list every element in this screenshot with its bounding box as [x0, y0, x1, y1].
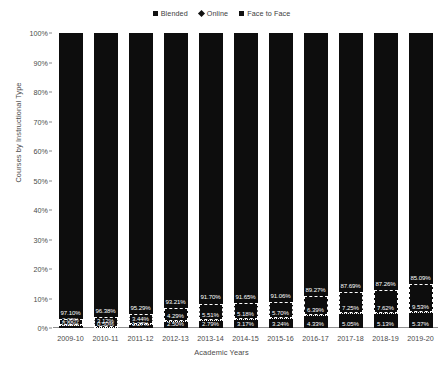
bar-column[interactable]: 91.06%5.70%3.24%2015-16: [263, 33, 298, 328]
x-axis-tick-label: 2010-11: [93, 334, 119, 343]
y-axis-tick-mark: [49, 62, 52, 63]
bar-value-label: 93.21%: [165, 299, 185, 305]
bar-stack: 87.69%7.25%5.05%: [339, 33, 363, 328]
bar-value-label: 95.29%: [130, 305, 150, 311]
bar-column[interactable]: 96.38%3.12%0.50%2010-11: [88, 33, 123, 328]
bar-column[interactable]: 91.65%5.18%3.17%2014-15: [228, 33, 263, 328]
y-axis-tick-mark: [49, 328, 52, 329]
legend-item-blended: Blended: [153, 9, 188, 18]
bar-column[interactable]: 93.21%4.29%2.50%2012-13: [158, 33, 193, 328]
bar-segment-face-to-face[interactable]: 89.27%: [304, 33, 328, 296]
x-axis-tick-label: 2017-18: [337, 334, 363, 343]
bar-value-label: 3.24%: [272, 321, 289, 327]
bar-column[interactable]: 91.70%5.51%2.79%2013-14: [193, 33, 228, 328]
legend-swatch-square-icon: [153, 11, 158, 16]
y-axis-tick-label: 60%: [34, 147, 48, 156]
bar-value-label: 87.26%: [375, 281, 395, 287]
bar-segment-online[interactable]: 5.05%: [339, 313, 363, 328]
bar-segment-online[interactable]: 2.50%: [164, 321, 188, 328]
bar-value-label: 3.17%: [237, 321, 254, 327]
bar-segment-online[interactable]: 1.27%: [129, 324, 153, 328]
bar-segment-face-to-face[interactable]: 87.26%: [374, 33, 398, 290]
bar-value-label: 2.50%: [167, 321, 184, 327]
bar-segment-online[interactable]: 0.50%: [94, 327, 118, 328]
bar-value-label: 91.65%: [235, 294, 255, 300]
y-axis-tick-label: 20%: [34, 265, 48, 274]
bar-segment-online[interactable]: 5.13%: [374, 313, 398, 328]
bar-segment-blended[interactable]: 6.39%: [304, 296, 328, 315]
y-axis-tick-label: 100%: [30, 29, 48, 38]
y-axis-tick-label: 30%: [34, 235, 48, 244]
y-axis-tick-mark: [49, 269, 52, 270]
x-axis-tick-label: 2013-14: [197, 334, 223, 343]
bar-series-group: 97.10%2.00%0.90%2009-1096.38%3.12%0.50%2…: [53, 33, 438, 328]
bar-segment-online[interactable]: 3.24%: [269, 318, 293, 328]
bar-column[interactable]: 85.09%9.53%5.37%2019-20: [403, 33, 438, 328]
bar-segment-online[interactable]: 3.17%: [234, 319, 258, 328]
bar-column[interactable]: 97.10%2.00%0.90%2009-10: [53, 33, 88, 328]
bar-value-label: 5.37%: [412, 321, 429, 327]
bar-column[interactable]: 95.29%3.44%1.27%2011-12: [123, 33, 158, 328]
y-axis-tick-mark: [49, 151, 52, 152]
bar-segment-blended[interactable]: 7.62%: [374, 290, 398, 312]
bar-segment-blended[interactable]: 9.53%: [409, 284, 433, 312]
bar-stack: 89.27%6.39%4.33%: [304, 33, 328, 328]
bar-column[interactable]: 87.26%7.62%5.13%2018-19: [368, 33, 403, 328]
x-axis-tick-label: 2016-17: [302, 334, 328, 343]
bar-segment-online[interactable]: 0.90%: [59, 325, 83, 328]
bar-segment-online[interactable]: 4.33%: [304, 315, 328, 328]
bar-value-label: 96.38%: [95, 308, 115, 314]
y-axis-tick-mark: [49, 33, 52, 34]
bar-value-label: 87.69%: [340, 283, 360, 289]
chart-legend: Blended Online Face to Face: [0, 9, 443, 18]
bar-segment-online[interactable]: 2.79%: [199, 320, 223, 328]
bar-segment-face-to-face[interactable]: 97.10%: [59, 33, 83, 319]
bar-stack: 91.06%5.70%3.24%: [269, 33, 293, 328]
x-axis-tick-label: 2012-13: [162, 334, 188, 343]
bar-value-label: 5.51%: [202, 312, 219, 318]
bar-segment-blended[interactable]: 7.25%: [339, 292, 363, 313]
bar-stack: 85.09%9.53%5.37%: [409, 33, 433, 328]
y-axis-tick-mark: [49, 210, 52, 211]
y-axis-tick-mark: [49, 92, 52, 93]
x-axis-tick-label: 2018-19: [372, 334, 398, 343]
bar-value-label: 1.27%: [132, 321, 149, 327]
bar-value-label: 4.29%: [167, 313, 184, 319]
y-axis-tick-mark: [49, 239, 52, 240]
bar-stack: 97.10%2.00%0.90%: [59, 33, 83, 328]
plot-area: 0%10%20%30%40%50%60%70%80%90%100% 97.10%…: [53, 33, 438, 328]
bar-column[interactable]: 89.27%6.39%4.33%2016-17: [298, 33, 333, 328]
bar-value-label: 85.09%: [410, 275, 430, 281]
bar-stack: 87.26%7.62%5.13%: [374, 33, 398, 328]
y-axis-tick-label: 50%: [34, 176, 48, 185]
bar-segment-blended[interactable]: 5.51%: [199, 304, 223, 320]
bar-value-label: 91.06%: [270, 293, 290, 299]
y-axis-tick-mark: [49, 298, 52, 299]
bar-segment-face-to-face[interactable]: 93.21%: [164, 33, 188, 308]
y-axis-tick-label: 90%: [34, 58, 48, 67]
bar-segment-blended[interactable]: 5.70%: [269, 302, 293, 319]
bar-segment-face-to-face[interactable]: 95.29%: [129, 33, 153, 314]
legend-swatch-square-icon: [239, 11, 244, 16]
bar-segment-blended[interactable]: 4.29%: [164, 308, 188, 321]
bar-segment-face-to-face[interactable]: 96.38%: [94, 33, 118, 317]
bar-segment-face-to-face[interactable]: 91.06%: [269, 33, 293, 302]
bar-stack: 96.38%3.12%0.50%: [94, 33, 118, 328]
bar-segment-online[interactable]: 5.37%: [409, 312, 433, 328]
bar-value-label: 5.05%: [342, 321, 359, 327]
bar-stack: 95.29%3.44%1.27%: [129, 33, 153, 328]
bar-column[interactable]: 87.69%7.25%5.05%2017-18: [333, 33, 368, 328]
y-axis-tick-label: 10%: [34, 294, 48, 303]
bar-value-label: 7.25%: [342, 305, 359, 311]
bar-segment-blended[interactable]: 5.18%: [234, 303, 258, 318]
legend-item-face-to-face: Face to Face: [239, 9, 290, 18]
bar-segment-face-to-face[interactable]: 91.65%: [234, 33, 258, 303]
bar-value-label: 7.62%: [377, 305, 394, 311]
bar-segment-face-to-face[interactable]: 91.70%: [199, 33, 223, 304]
bar-segment-face-to-face[interactable]: 85.09%: [409, 33, 433, 284]
x-axis-tick-label: 2014-15: [232, 334, 258, 343]
bar-segment-face-to-face[interactable]: 87.69%: [339, 33, 363, 292]
bar-value-label: 5.70%: [272, 310, 289, 316]
y-axis-tick-label: 40%: [34, 206, 48, 215]
y-axis-tick-mark: [49, 180, 52, 181]
